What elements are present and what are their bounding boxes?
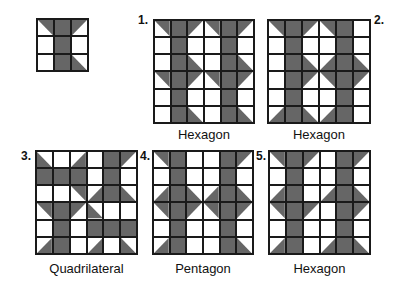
grid-cell xyxy=(303,151,320,168)
grid-cell xyxy=(103,151,120,168)
grid-cell xyxy=(36,168,53,185)
grid-cell xyxy=(171,89,188,106)
grid-cell xyxy=(353,185,370,202)
panel-4-caption: Pentagon xyxy=(152,262,254,275)
grid-cell xyxy=(319,106,336,123)
grid-cell xyxy=(36,220,53,237)
grid-cell xyxy=(120,220,137,237)
triangle-shape xyxy=(37,238,52,253)
grid-cell xyxy=(286,151,303,168)
grid-cell xyxy=(285,89,302,106)
grid-cell xyxy=(286,220,303,237)
grid-cell xyxy=(221,20,238,37)
grid-cell xyxy=(153,151,170,168)
grid-cell xyxy=(36,202,53,219)
grid-cell xyxy=(203,220,220,237)
grid-cell xyxy=(204,20,221,37)
grid-cell xyxy=(54,19,71,36)
triangle-shape xyxy=(303,21,318,36)
grid-cell xyxy=(269,185,286,202)
grid-cell xyxy=(203,237,220,254)
grid-cell xyxy=(285,37,302,54)
grid-cell xyxy=(70,202,87,219)
grid-cell xyxy=(268,106,285,123)
grid-cell xyxy=(269,220,286,237)
grid-cell xyxy=(237,20,254,37)
grid-cell xyxy=(153,202,170,219)
grid-cell xyxy=(154,54,171,71)
grid-cell xyxy=(187,89,204,106)
panel-5-caption: Hexagon xyxy=(268,262,371,275)
triangle-shape xyxy=(88,186,103,201)
grid-cell xyxy=(170,220,187,237)
grid-cell xyxy=(268,54,285,71)
grid-cell xyxy=(353,54,370,71)
grid-cell xyxy=(220,151,237,168)
grid-cell xyxy=(353,151,370,168)
grid-cell xyxy=(53,237,70,254)
grid-cell xyxy=(336,168,353,185)
triangle-shape xyxy=(155,21,170,36)
triangle-shape xyxy=(205,72,220,87)
grid-cell xyxy=(120,185,137,202)
triangle-shape xyxy=(188,72,203,87)
grid-cell xyxy=(171,54,188,71)
grid-cell xyxy=(336,54,353,71)
grid-cell xyxy=(303,185,320,202)
grid-cell xyxy=(120,151,137,168)
panel-3-grid xyxy=(35,150,138,255)
grid-cell xyxy=(36,151,53,168)
grid-cell xyxy=(336,89,353,106)
grid-cell xyxy=(220,237,237,254)
triangle-shape xyxy=(269,107,284,122)
triangle-shape xyxy=(37,152,52,167)
grid-cell xyxy=(186,168,203,185)
grid-cell xyxy=(186,151,203,168)
grid-cell xyxy=(36,237,53,254)
grid-cell xyxy=(302,106,319,123)
triangle-shape xyxy=(187,203,202,218)
grid-cell xyxy=(353,89,370,106)
grid-cell xyxy=(236,202,253,219)
grid-cell xyxy=(203,151,220,168)
panel-5-grid xyxy=(268,150,371,255)
grid-cell xyxy=(269,237,286,254)
grid-cell xyxy=(153,168,170,185)
grid-cell xyxy=(320,185,337,202)
grid-cell xyxy=(170,237,187,254)
grid-cell xyxy=(170,168,187,185)
panel-3-caption: Quadrilateral xyxy=(30,262,143,275)
triangle-shape xyxy=(204,186,219,201)
triangle-shape xyxy=(188,21,203,36)
grid-cell xyxy=(204,37,221,54)
grid-cell xyxy=(268,37,285,54)
grid-cell xyxy=(70,185,87,202)
grid-cell xyxy=(336,220,353,237)
triangle-shape xyxy=(354,238,369,253)
grid-cell xyxy=(353,71,370,88)
triangle-shape xyxy=(320,107,335,122)
grid-cell xyxy=(36,185,53,202)
grid-cell xyxy=(71,19,88,36)
grid-cell xyxy=(353,20,370,37)
triangle-shape xyxy=(37,203,52,218)
grid-cell xyxy=(186,237,203,254)
grid-cell xyxy=(236,151,253,168)
grid-cell xyxy=(70,237,87,254)
grid-cell xyxy=(353,37,370,54)
triangle-shape xyxy=(238,21,253,36)
triangle-shape xyxy=(237,152,252,167)
triangle-shape xyxy=(187,186,202,201)
grid-cell xyxy=(154,20,171,37)
grid-cell xyxy=(103,220,120,237)
triangle-shape xyxy=(121,186,136,201)
grid-cell xyxy=(37,36,54,53)
grid-cell xyxy=(221,89,238,106)
grid-cell xyxy=(220,220,237,237)
grid-cell xyxy=(303,237,320,254)
triangle-shape xyxy=(270,203,285,218)
grid-cell xyxy=(70,168,87,185)
grid-cell xyxy=(103,185,120,202)
grid-cell xyxy=(336,151,353,168)
grid-cell xyxy=(204,89,221,106)
